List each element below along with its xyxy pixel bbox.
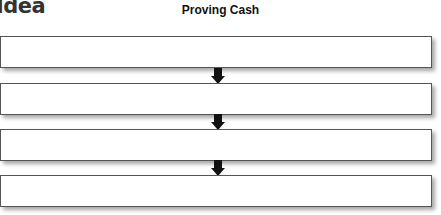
down-arrow-icon	[211, 68, 225, 84]
diagram-title: Proving Cash	[0, 3, 441, 17]
flow-box-4[interactable]	[0, 175, 432, 207]
down-arrow-icon	[211, 114, 225, 130]
flow-box-2[interactable]	[0, 83, 432, 115]
down-arrow-icon	[211, 160, 225, 176]
flow-box-1[interactable]	[0, 36, 432, 68]
flow-box-3[interactable]	[0, 129, 432, 161]
